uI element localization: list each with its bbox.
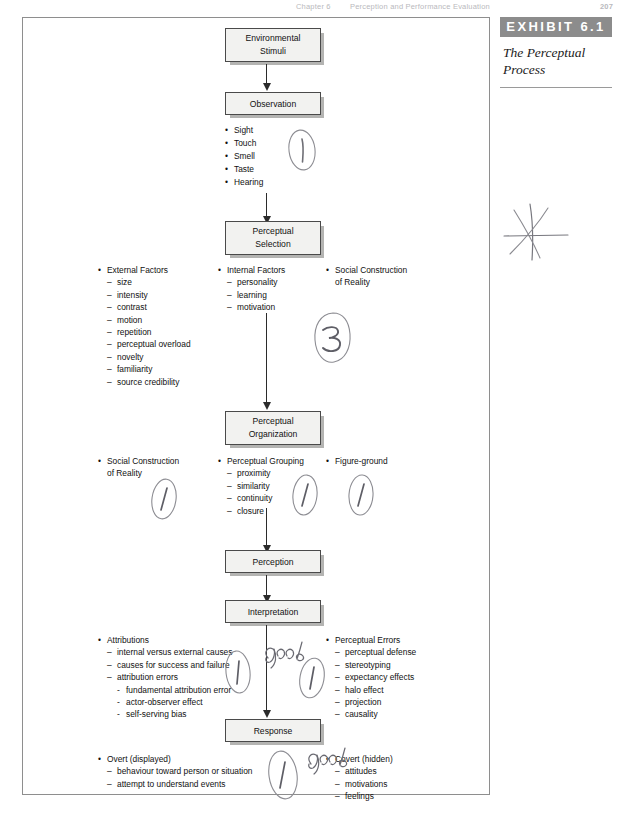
response-covert: Covert (hidden) attitudes motivations fe… <box>326 753 393 803</box>
list-item: attitudes <box>326 765 393 777</box>
flowbox-response-line1: Response <box>254 726 293 736</box>
list-item: fundamental attribution error <box>98 684 232 696</box>
arrow-organization-to-perception <box>266 508 267 546</box>
flowbox-perceptual-selection: Perceptual Selection <box>225 221 321 255</box>
flowbox-interpretation-line1: Interpretation <box>248 607 299 617</box>
organization-social-construction: Social Construction of Reality <box>98 455 213 480</box>
group-heading: Figure-ground <box>326 455 388 467</box>
list-item: causality <box>326 708 416 720</box>
group-heading: Social Construction <box>98 455 213 467</box>
flowbox-perceptual-organization: Perceptual Organization <box>225 411 321 445</box>
list-item: stereotyping <box>326 659 416 671</box>
list-item: motivation <box>218 301 285 313</box>
flowbox-perception: Perception <box>225 550 321 573</box>
header-chapter: Chapter 6 <box>296 2 331 11</box>
flowbox-environmental-stimuli-line1: Environmental <box>246 33 301 43</box>
list-item: feelings <box>326 790 393 802</box>
organization-perceptual-grouping: Perceptual Grouping proximity similarity… <box>218 455 304 517</box>
arrow-senses-to-selection <box>266 193 267 217</box>
list-item: perceptual overload <box>98 338 191 350</box>
list-item: internal versus external causes <box>98 646 232 658</box>
senses-list: Sight Touch Smell Taste Hearing <box>225 124 263 189</box>
group-heading: Overt (displayed) <box>98 753 252 765</box>
response-overt: Overt (displayed) behaviour toward perso… <box>98 753 252 790</box>
page-running-header: Chapter 6 Perception and Performance Eva… <box>0 2 633 16</box>
list-item: Taste <box>225 163 263 176</box>
flowbox-perceptual-organization-line2: Organization <box>226 428 320 441</box>
list-item: closure <box>218 505 304 517</box>
flowbox-response: Response <box>225 719 321 742</box>
exhibit-title-line1: The Perceptual <box>503 45 585 60</box>
flowbox-environmental-stimuli: Environmental Stimuli <box>225 28 321 62</box>
arrow-interpretation-to-response <box>266 625 267 711</box>
selection-internal-factors: Internal Factors personality learning mo… <box>218 264 285 314</box>
list-item: source credibility <box>98 376 191 388</box>
list-item: motion <box>98 314 191 326</box>
list-item: proximity <box>218 467 304 479</box>
flowbox-perception-line1: Perception <box>252 557 293 567</box>
interpretation-attributions: Attributions internal versus external ca… <box>98 634 232 721</box>
list-item: intensity <box>98 289 191 301</box>
list-item: expectancy effects <box>326 671 416 683</box>
organization-figure-ground: Figure-ground <box>326 455 388 467</box>
list-item: Smell <box>225 150 263 163</box>
group-heading: Social Construction <box>326 264 436 276</box>
list-item: causes for success and failure <box>98 659 232 671</box>
list-item: similarity <box>218 480 304 492</box>
list-item: Touch <box>225 137 263 150</box>
list-item: contrast <box>98 301 191 313</box>
group-heading: Internal Factors <box>218 264 285 276</box>
flowbox-observation-line1: Observation <box>250 99 296 109</box>
list-item: self-serving bias <box>98 708 232 720</box>
arrow-selection-to-organization <box>266 313 267 403</box>
list-item: personality <box>218 276 285 288</box>
group-heading-cont: of Reality <box>326 276 436 288</box>
arrow-stimuli-to-observation <box>266 64 267 84</box>
list-item: size <box>98 276 191 288</box>
exhibit-label-bar: EXHIBIT 6.1 <box>500 17 612 37</box>
list-item: Hearing <box>225 176 263 189</box>
exhibit-title: The Perceptual Process <box>500 37 612 87</box>
list-item: actor-observer effect <box>98 696 232 708</box>
flowbox-environmental-stimuli-line2: Stimuli <box>226 45 320 58</box>
arrow-perception-to-interpretation <box>266 575 267 596</box>
flowbox-interpretation: Interpretation <box>225 600 321 623</box>
selection-social-construction: Social Construction of Reality <box>326 264 436 289</box>
list-item: projection <box>326 696 416 708</box>
list-item: repetition <box>98 326 191 338</box>
group-heading: Perceptual Grouping <box>218 455 304 467</box>
list-item: learning <box>218 289 285 301</box>
header-chapter-title: Perception and Performance Evaluation <box>350 2 490 11</box>
list-item: halo effect <box>326 684 416 696</box>
caption-divider <box>500 87 612 88</box>
group-heading: Perceptual Errors <box>326 634 416 646</box>
list-item: behaviour toward person or situation <box>98 765 252 777</box>
header-page-number: 207 <box>600 2 613 11</box>
flowbox-perceptual-organization-line1: Perceptual <box>252 416 293 426</box>
exhibit-title-line2: Process <box>503 62 545 77</box>
list-item: attribution errors <box>98 671 232 683</box>
list-item: Sight <box>225 124 263 137</box>
list-item: motivations <box>326 778 393 790</box>
flowbox-observation: Observation <box>225 92 321 115</box>
list-item: perceptual defense <box>326 646 416 658</box>
list-item: familiarity <box>98 363 191 375</box>
list-item: novelty <box>98 351 191 363</box>
list-item: continuity <box>218 492 304 504</box>
flowbox-perceptual-selection-line2: Selection <box>226 238 320 251</box>
group-heading: Attributions <box>98 634 232 646</box>
selection-external-factors: External Factors size intensity contrast… <box>98 264 191 388</box>
group-heading: Covert (hidden) <box>326 753 393 765</box>
group-heading-cont: of Reality <box>98 467 213 479</box>
list-item: attempt to understand events <box>98 778 252 790</box>
flowbox-perceptual-selection-line1: Perceptual <box>252 226 293 236</box>
interpretation-perceptual-errors: Perceptual Errors perceptual defense ste… <box>326 634 416 721</box>
group-heading: External Factors <box>98 264 191 276</box>
exhibit-caption-rail: EXHIBIT 6.1 The Perceptual Process <box>500 17 612 88</box>
annotation-star-mark <box>500 198 576 268</box>
